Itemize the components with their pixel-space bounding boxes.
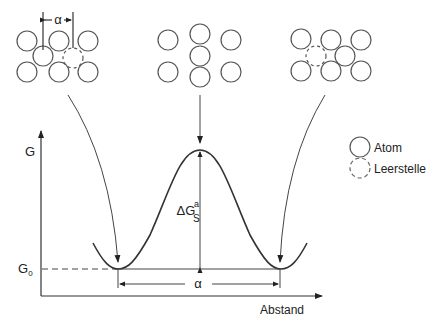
atom-icon	[190, 24, 210, 44]
atom-icon	[321, 61, 341, 81]
lattice-final	[291, 29, 371, 81]
lattice-spacing-label: α	[54, 12, 62, 27]
atom-icon	[49, 62, 69, 82]
diffusion-energy-diagram: α G Abstand G0 ΔG a S α	[0, 0, 440, 323]
atom-icon	[17, 31, 37, 51]
atom-icon	[49, 31, 69, 51]
legend-atom-label: Atom	[374, 141, 402, 155]
atom-icon	[190, 67, 210, 87]
barrier-label-sup: a	[194, 199, 199, 209]
legend: Atom Leerstelle	[350, 137, 426, 178]
atom-icon	[78, 62, 98, 82]
atom-icon	[158, 62, 178, 82]
legend-atom-icon	[350, 137, 370, 157]
atom-icon	[158, 30, 178, 50]
atom-icon	[221, 62, 241, 82]
atom-icon	[321, 30, 341, 50]
barrier-label-sub: S	[193, 213, 200, 224]
x-axis-label: Abstand	[260, 303, 304, 317]
g0-label: G0	[18, 261, 33, 278]
arrow-initial	[68, 95, 118, 262]
atom-icon	[351, 61, 371, 81]
atom-icon	[291, 29, 311, 49]
legend-vacancy-label: Leerstelle	[374, 162, 426, 176]
atom-icon	[335, 46, 355, 66]
atom-icon	[291, 61, 311, 81]
distance-label: α	[194, 276, 202, 291]
atom-icon	[221, 30, 241, 50]
y-axis-label: G	[25, 144, 35, 159]
lattice-saddle	[158, 24, 241, 87]
arrow-final	[280, 95, 325, 262]
atom-icon	[190, 46, 210, 66]
atom-icon	[17, 62, 37, 82]
vacancy-icon	[306, 46, 326, 66]
atom-icon	[78, 31, 98, 51]
atom-icon	[351, 30, 371, 50]
legend-vacancy-icon	[350, 158, 370, 178]
